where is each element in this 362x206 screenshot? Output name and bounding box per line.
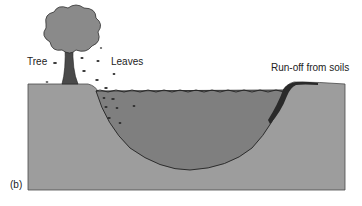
panel-label: (b)	[10, 180, 22, 190]
tree-canopy	[44, 5, 101, 53]
tree-label: Tree	[27, 57, 47, 67]
leaves-label: Leaves	[111, 57, 143, 67]
runoff-label: Run-off from soils	[271, 63, 349, 73]
lake-cross-section-diagram	[0, 0, 362, 206]
